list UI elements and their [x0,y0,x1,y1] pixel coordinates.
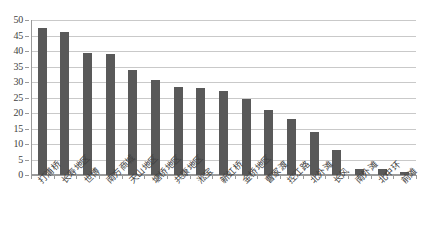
bar [38,28,47,175]
y-tick-mark [25,98,29,99]
y-tick-label: 40 [13,46,23,56]
bars-layer [31,20,416,175]
y-tick-label: 5 [18,155,23,165]
y-tick-label: 45 [13,31,23,41]
y-tick-label: 30 [13,77,23,87]
y-tick-label: 20 [13,108,23,118]
bar [106,54,115,175]
y-tick-mark [25,20,29,21]
y-tick-label: 25 [13,93,23,103]
bar [60,32,69,175]
y-tick-mark [25,160,29,161]
x-axis-labels: 打浦桥长寿地区世博南方商城天山地区塘桥地区共康地区淞宝新虹桥金桥地区曹家渡控江路… [31,179,421,235]
y-tick-mark [25,144,29,145]
bar [219,91,228,175]
y-tick-mark [25,175,29,176]
y-tick-label: 10 [13,139,23,149]
y-tick-label: 35 [13,62,23,72]
bar-chart: 05101520253035404550 打浦桥长寿地区世博南方商城天山地区塘桥… [0,0,421,235]
y-axis: 05101520253035404550 [0,20,29,176]
y-tick-mark [25,113,29,114]
y-tick-label: 15 [13,124,23,134]
y-tick-label: 0 [18,170,23,180]
y-tick-mark [25,82,29,83]
y-tick-mark [25,36,29,37]
y-tick-mark [25,51,29,52]
y-tick-mark [25,67,29,68]
y-tick-label: 50 [13,15,23,25]
y-tick-mark [25,129,29,130]
bar [242,99,251,175]
